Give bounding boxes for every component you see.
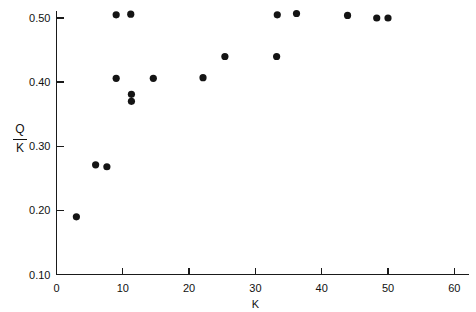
data-point [293,10,300,17]
data-point [73,213,80,220]
y-axis-tick-label: 0.10 [29,269,50,281]
data-point [92,161,99,168]
x-axis-title: K [252,298,260,310]
data-point [128,91,135,98]
data-point [127,11,134,18]
y-axis-title-denominator: K [16,141,24,155]
data-points-group [73,10,392,220]
tick-labels-group: 0.100.200.300.400.500102030405060 [29,12,460,294]
data-point [150,75,157,82]
scatter-chart-figure: 0.100.200.300.400.500102030405060 KQK [0,0,476,312]
y-axis-tick-label: 0.30 [29,140,50,152]
data-point [128,98,135,105]
y-axis-tick-label: 0.40 [29,76,50,88]
x-axis-tick-label: 10 [117,282,129,294]
data-point [221,53,228,60]
data-point [199,74,206,81]
x-axis-tick-label: 50 [382,282,394,294]
x-axis-tick-label: 40 [316,282,328,294]
data-point [103,163,110,170]
x-axis-tick-label: 60 [448,282,460,294]
data-point [373,14,380,21]
x-axis-tick-label: 0 [53,282,59,294]
y-axis-title-numerator: Q [15,122,24,136]
axes-group [57,11,469,275]
data-point [384,14,391,21]
ticks-group [57,18,455,275]
data-point [113,11,120,18]
data-point [113,75,120,82]
x-axis-tick-label: 30 [249,282,261,294]
data-point [274,11,281,18]
x-axis-tick-label: 20 [183,282,195,294]
y-axis-tick-label: 0.50 [29,12,50,24]
data-point [344,12,351,19]
y-axis-tick-label: 0.20 [29,204,50,216]
data-point [273,53,280,60]
plot-area: 0.100.200.300.400.500102030405060 KQK [0,0,476,312]
